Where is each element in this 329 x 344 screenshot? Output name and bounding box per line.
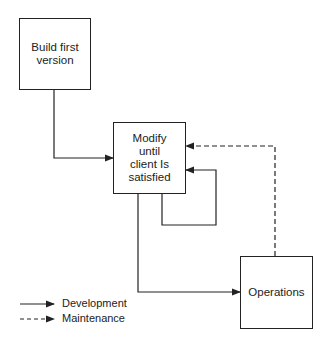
node-build-first-version: Build first version <box>19 18 91 90</box>
legend-maintenance: Maintenance <box>62 312 125 324</box>
node-label: Modify until client Is satisfied <box>124 132 175 184</box>
edge-build-to-modify <box>54 90 113 158</box>
legend-development: Development <box>62 297 127 309</box>
edge-modify-to-operations <box>138 194 240 292</box>
edge-operations-to-modify <box>186 146 275 256</box>
node-operations: Operations <box>240 256 313 329</box>
node-label: Build first version <box>26 41 84 67</box>
node-label: Operations <box>248 286 304 299</box>
node-modify-until-satisfied: Modify until client Is satisfied <box>113 122 186 194</box>
